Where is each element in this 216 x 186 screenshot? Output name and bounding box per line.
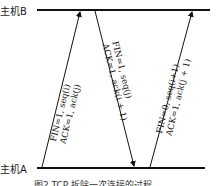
host-b-label: 主机B (0, 3, 27, 18)
host-a-label: 主机A (0, 161, 27, 176)
figure-caption: 图2 TCP 拆除一次连接的过程 (34, 178, 152, 186)
